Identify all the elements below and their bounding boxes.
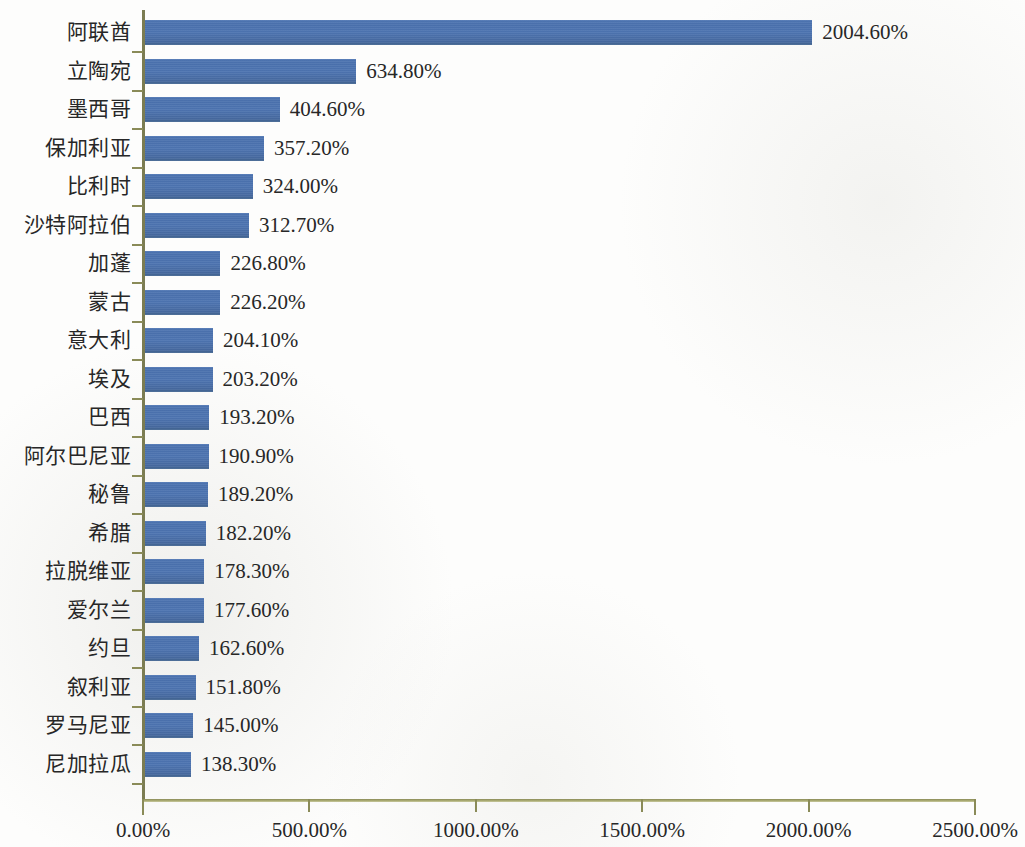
category-label: 尼加拉瓜	[3, 752, 131, 777]
category-label: 秘鲁	[3, 482, 131, 507]
chart-row: 立陶宛634.80%	[143, 59, 975, 98]
bar-value-label: 324.00%	[263, 174, 338, 199]
y-axis-tick	[132, 552, 143, 554]
chart-row: 爱尔兰177.60%	[143, 598, 975, 637]
bar-value-label: 177.60%	[214, 598, 289, 623]
bar	[145, 713, 193, 738]
category-label: 罗马尼亚	[3, 713, 131, 738]
chart-row: 保加利亚357.20%	[143, 136, 975, 175]
y-axis-tick	[132, 783, 143, 785]
chart-row: 埃及203.20%	[143, 367, 975, 406]
x-axis-tick-label: 500.00%	[272, 818, 347, 843]
bar-value-label: 138.30%	[201, 752, 276, 777]
bar-value-label: 151.80%	[206, 675, 281, 700]
bar	[145, 405, 209, 430]
bar-value-label: 162.60%	[209, 636, 284, 661]
category-label: 阿联酋	[3, 20, 131, 45]
chart-row: 巴西193.20%	[143, 405, 975, 444]
bar-value-label: 226.20%	[230, 290, 305, 315]
bar-value-label: 189.20%	[218, 482, 293, 507]
y-axis-tick	[132, 590, 143, 592]
y-axis-tick	[132, 359, 143, 361]
x-axis-tick-label: 0.00%	[116, 818, 170, 843]
y-axis-tick	[132, 282, 143, 284]
bar-value-label: 203.20%	[223, 367, 298, 392]
x-axis-tick	[308, 799, 310, 812]
bar	[145, 59, 356, 84]
bar	[145, 20, 812, 45]
bar-value-label: 204.10%	[223, 328, 298, 353]
bar-value-label: 182.20%	[216, 521, 291, 546]
bar-value-label: 634.80%	[366, 59, 441, 84]
bar-value-label: 193.20%	[219, 405, 294, 430]
chart-row: 意大利204.10%	[143, 328, 975, 367]
bar-value-label: 178.30%	[214, 559, 289, 584]
chart-row: 尼加拉瓜138.30%	[143, 752, 975, 791]
category-label: 比利时	[3, 174, 131, 199]
y-axis-tick	[132, 475, 143, 477]
category-label: 意大利	[3, 328, 131, 353]
bar	[145, 521, 206, 546]
y-axis-tick	[132, 128, 143, 130]
bar-value-label: 2004.60%	[822, 20, 908, 45]
bar	[145, 752, 191, 777]
chart-row: 比利时324.00%	[143, 174, 975, 213]
bar	[145, 559, 204, 584]
y-axis-tick	[132, 167, 143, 169]
chart-row: 秘鲁189.20%	[143, 482, 975, 521]
bar-value-label: 357.20%	[274, 136, 349, 161]
category-label: 保加利亚	[3, 136, 131, 161]
y-axis-tick	[132, 398, 143, 400]
y-axis-tick	[132, 321, 143, 323]
category-label: 埃及	[3, 367, 131, 392]
bar-value-label: 190.90%	[219, 444, 294, 469]
y-axis-tick	[132, 244, 143, 246]
chart-row: 加蓬226.80%	[143, 251, 975, 290]
category-label: 爱尔兰	[3, 598, 131, 623]
y-axis-tick	[132, 706, 143, 708]
bar	[145, 97, 280, 122]
bar	[145, 328, 213, 353]
y-axis-tick	[132, 205, 143, 207]
category-label: 沙特阿拉伯	[3, 213, 131, 238]
bar-chart: 阿联酋2004.60%立陶宛634.80%墨西哥404.60%保加利亚357.2…	[0, 0, 1025, 847]
bar	[145, 444, 209, 469]
chart-row: 墨西哥404.60%	[143, 97, 975, 136]
y-axis-tick	[132, 513, 143, 515]
category-label: 叙利亚	[3, 675, 131, 700]
bar	[145, 213, 249, 238]
chart-row: 蒙古226.20%	[143, 290, 975, 329]
bar	[145, 482, 208, 507]
bar	[145, 290, 220, 315]
bar	[145, 675, 196, 700]
chart-row: 罗马尼亚145.00%	[143, 713, 975, 752]
x-axis-tick	[974, 799, 976, 815]
chart-row: 约旦162.60%	[143, 636, 975, 675]
category-label: 墨西哥	[3, 97, 131, 122]
x-axis-tick	[475, 799, 477, 812]
y-axis-tick	[132, 744, 143, 746]
category-label: 蒙古	[3, 290, 131, 315]
category-label: 阿尔巴尼亚	[3, 444, 131, 469]
bar	[145, 251, 220, 276]
bar	[145, 636, 199, 661]
y-axis-tick	[132, 667, 143, 669]
x-axis-tick-label: 1500.00%	[599, 818, 685, 843]
category-label: 约旦	[3, 636, 131, 661]
bar	[145, 598, 204, 623]
chart-row: 阿尔巴尼亚190.90%	[143, 444, 975, 483]
chart-row: 叙利亚151.80%	[143, 675, 975, 714]
plot-area: 阿联酋2004.60%立陶宛634.80%墨西哥404.60%保加利亚357.2…	[143, 10, 975, 800]
x-axis-tick	[641, 799, 643, 812]
bar	[145, 174, 253, 199]
category-label: 希腊	[3, 521, 131, 546]
category-label: 拉脱维亚	[3, 559, 131, 584]
bar-value-label: 226.80%	[230, 251, 305, 276]
y-axis-tick	[132, 629, 143, 631]
category-label: 加蓬	[3, 251, 131, 276]
chart-row: 拉脱维亚178.30%	[143, 559, 975, 598]
bar	[145, 136, 264, 161]
x-axis-tick-label: 2500.00%	[932, 818, 1018, 843]
category-label: 立陶宛	[3, 59, 131, 84]
x-axis-tick-label: 2000.00%	[766, 818, 852, 843]
